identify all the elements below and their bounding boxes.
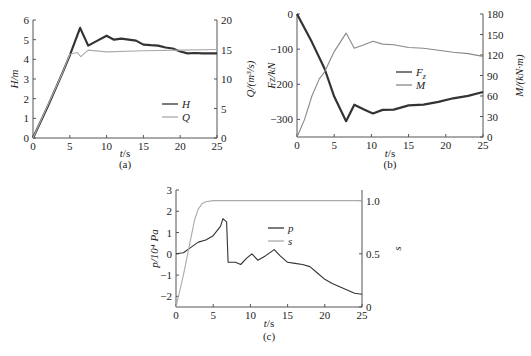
y2-tick-label: 1.0 (366, 195, 380, 207)
y2-tick-label: 60 (487, 90, 499, 102)
legend-label: H (181, 98, 191, 110)
x-tick-label: 15 (138, 140, 150, 152)
y2-tick-label: 30 (487, 111, 499, 123)
y2-tick-label: 180 (487, 8, 504, 20)
y2-tick-label: 0 (366, 301, 372, 313)
legend-label: p (287, 222, 294, 234)
x-tick-label: 20 (175, 140, 187, 152)
y-tick-label: 5 (24, 34, 30, 46)
series-fz (297, 14, 483, 121)
figure: 0510152025012345605101520HQt/s(a)H/mQ/(m… (0, 0, 531, 356)
y2-tick-label: 20 (221, 14, 233, 26)
y2-tick-label: 150 (487, 29, 504, 41)
x-tick-label: 15 (403, 139, 415, 151)
series-p (176, 219, 362, 295)
y-tick-label: 3 (167, 184, 173, 196)
y-tick-label: 4 (24, 53, 30, 65)
y2-axis-label: M/(kN·m) (513, 54, 526, 98)
panel-tag: (a) (119, 158, 132, 171)
y2-tick-label: 5 (221, 103, 227, 115)
y2-axis-label: Q/(m³/s) (244, 60, 257, 97)
x-tick-label: 0 (30, 140, 36, 152)
chart-panel-a: 0510152025012345605101520HQt/s(a)H/mQ/(m… (8, 14, 257, 171)
x-tick-label: 10 (245, 309, 257, 321)
legend-label: s (288, 235, 292, 247)
legend-label: Q (182, 111, 190, 123)
y-tick-label: −100 (270, 43, 293, 55)
y-axis-label: p/10⁴ Pa (148, 229, 160, 269)
x-tick-label: 10 (101, 140, 113, 152)
panel-tag: (c) (263, 330, 276, 343)
x-axis-label: t/s (264, 317, 274, 329)
y2-axis-label: s (391, 246, 403, 250)
y-axis-label: H/m (8, 69, 20, 89)
x-tick-label: 5 (331, 139, 337, 151)
x-tick-label: 20 (319, 309, 331, 321)
y2-tick-label: 10 (221, 73, 233, 85)
y-tick-label: −1 (160, 269, 172, 281)
y2-tick-label: 0 (221, 132, 227, 144)
y-tick-label: 3 (24, 73, 30, 85)
y-tick-label: −2 (160, 290, 172, 302)
y2-tick-label: 0 (487, 131, 493, 143)
y2-tick-label: 90 (487, 70, 499, 82)
x-tick-label: 0 (173, 309, 179, 321)
legend-label: M (415, 79, 426, 91)
chart-panel-c: 0510152025−2−1012300.51.0pst/s(c)p/10⁴ P… (148, 184, 403, 343)
x-tick-label: 20 (440, 139, 452, 151)
y-tick-label: 0 (24, 132, 30, 144)
x-tick-label: 15 (282, 309, 294, 321)
y-tick-label: 6 (24, 14, 30, 26)
x-tick-label: 5 (67, 140, 73, 152)
y-axis-label: Fz/kN (265, 62, 277, 90)
y-tick-label: 2 (167, 205, 173, 217)
series-q (33, 50, 217, 139)
x-tick-label: 10 (366, 139, 378, 151)
y2-tick-label: 0.5 (366, 248, 380, 260)
y-tick-label: −300 (270, 113, 293, 125)
x-tick-label: 0 (294, 139, 300, 151)
y-tick-label: 0 (167, 248, 173, 260)
x-tick-label: 5 (210, 309, 216, 321)
y-tick-label: 1 (24, 112, 30, 124)
y2-tick-label: 120 (487, 49, 504, 61)
chart-panel-b: 05101520250−100−200−3000306090120150180F… (265, 8, 526, 171)
y-tick-label: 2 (24, 93, 30, 105)
y-tick-label: 1 (167, 227, 173, 239)
y2-tick-label: 15 (221, 44, 233, 56)
y-tick-label: 0 (288, 8, 294, 20)
series-m (297, 33, 483, 137)
panel-tag: (b) (384, 158, 397, 171)
